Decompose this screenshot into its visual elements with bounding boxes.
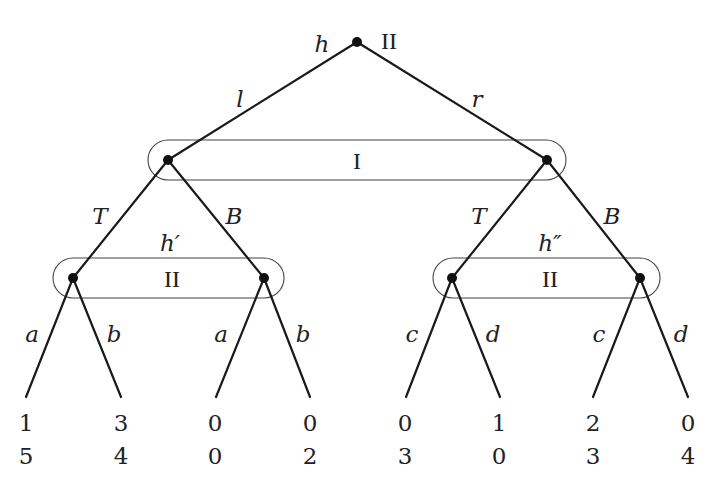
action-label-a-2: a xyxy=(214,323,228,346)
payoff-6-player2: 0 xyxy=(492,445,507,468)
infoset-I-label: I xyxy=(353,149,361,173)
payoff-7-player2: 3 xyxy=(586,445,601,468)
payoff-8-player2: 4 xyxy=(681,445,696,468)
payoff-1-player1: 1 xyxy=(19,412,34,435)
node-l xyxy=(163,155,173,165)
payoff-4-player2: 2 xyxy=(303,445,318,468)
action-label-c-2: c xyxy=(593,323,606,346)
infoset-left-player-label: II xyxy=(164,267,180,291)
action-label-b-1: b xyxy=(107,323,122,346)
node-lB xyxy=(259,273,269,283)
action-label-left-T: T xyxy=(92,205,107,228)
action-label-d-2: d xyxy=(674,323,689,346)
action-label-d-1: d xyxy=(486,323,501,346)
payoff-1-player2: 5 xyxy=(19,445,34,468)
payoff-4-player1: 0 xyxy=(303,412,318,435)
edge-right-B xyxy=(547,160,640,278)
node-rB xyxy=(635,273,645,283)
game-tree xyxy=(0,0,725,491)
action-label-left-B: B xyxy=(226,205,243,228)
payoff-2-player1: 3 xyxy=(114,412,129,435)
action-label-right-B: B xyxy=(604,205,621,228)
root-node xyxy=(352,37,362,47)
payoff-5-player1: 0 xyxy=(398,412,413,435)
payoff-5-player2: 3 xyxy=(398,445,413,468)
action-label-b-2: b xyxy=(296,323,311,346)
node-r xyxy=(542,155,552,165)
infoset-right-player-label: II xyxy=(542,267,558,291)
payoff-3-player1: 0 xyxy=(208,412,223,435)
edge-left-B xyxy=(168,160,264,278)
edge-right-T xyxy=(452,160,547,278)
payoff-8-player1: 0 xyxy=(681,412,696,435)
history-label-h-prime: h′ xyxy=(160,232,180,255)
action-label-right-T: T xyxy=(471,205,486,228)
payoff-3-player2: 0 xyxy=(208,445,223,468)
node-rT xyxy=(447,273,457,283)
action-label-l: l xyxy=(236,88,243,111)
node-lT xyxy=(68,273,78,283)
action-label-c-1: c xyxy=(406,323,419,346)
edge-left-T xyxy=(73,160,168,278)
payoff-6-player1: 1 xyxy=(492,412,507,435)
root-player-label: II xyxy=(381,29,397,53)
root-history-label: h xyxy=(315,33,330,56)
edge-l xyxy=(168,42,357,160)
action-label-r: r xyxy=(472,88,483,111)
payoff-2-player2: 4 xyxy=(114,445,129,468)
payoff-7-player1: 2 xyxy=(586,412,601,435)
history-label-h-double-prime: h″ xyxy=(538,232,561,255)
edge-r xyxy=(357,42,547,160)
action-label-a-1: a xyxy=(25,323,39,346)
